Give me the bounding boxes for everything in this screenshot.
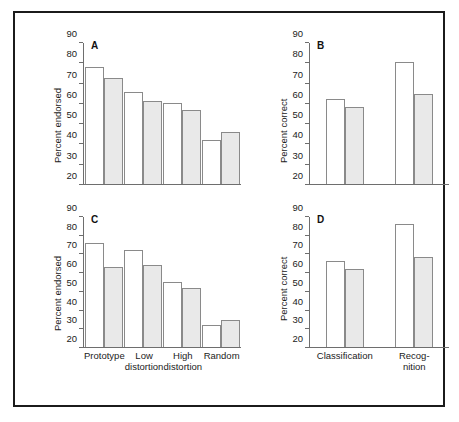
panel-b: B Percent correct 2030405060708090 xyxy=(277,35,449,207)
category-label-classification: Classification xyxy=(310,349,380,381)
bar-group xyxy=(310,217,380,347)
y-tick-label: 50 xyxy=(66,110,77,120)
y-tick-label: 30 xyxy=(66,151,77,161)
bar-open xyxy=(85,243,104,347)
bar-open xyxy=(395,62,414,184)
y-tick-mark xyxy=(305,310,309,311)
category-text: distortion xyxy=(125,362,164,373)
bar-filled xyxy=(345,269,364,347)
y-tick-mark xyxy=(79,291,83,292)
y-tick-mark xyxy=(305,123,309,124)
bar-filled xyxy=(143,265,162,347)
y-tick-label: 30 xyxy=(66,316,77,326)
y-tick-mark xyxy=(79,253,83,254)
y-tick-label: 40 xyxy=(66,297,77,307)
category-text: Random xyxy=(202,351,241,362)
category-label-recognition: Recog- nition xyxy=(380,349,450,381)
category-text: Prototype xyxy=(84,351,125,362)
y-tick-label: 90 xyxy=(66,29,77,39)
bar-group xyxy=(163,217,202,347)
y-tick-mark xyxy=(305,42,309,43)
panel-c-y-axis-title: Percent endorsed xyxy=(53,256,63,331)
y-tick-mark xyxy=(79,123,83,124)
panel-c-x-axis xyxy=(83,347,241,348)
bar-open xyxy=(395,224,414,347)
figure-container: A Percent endorsed 2030405060708090 B Pe… xyxy=(0,0,459,422)
bar-filled xyxy=(143,101,162,184)
panel-b-y-axis-title: Percent correct xyxy=(279,99,289,163)
y-tick-mark xyxy=(305,253,309,254)
bar-open xyxy=(202,140,221,184)
y-tick-label: 80 xyxy=(66,222,77,232)
y-tick-label: 60 xyxy=(66,90,77,100)
y-tick-label: 30 xyxy=(292,316,303,326)
y-tick-label: 40 xyxy=(292,131,303,141)
bar-group xyxy=(202,217,241,347)
panel-c-plot-area: 2030405060708090 xyxy=(83,217,241,348)
y-tick-mark xyxy=(79,272,83,273)
category-text: distortion xyxy=(163,362,202,373)
bar-filled xyxy=(345,107,364,184)
bar-filled xyxy=(182,110,201,184)
y-tick-label: 50 xyxy=(292,278,303,288)
panel-c-bar-groups xyxy=(84,217,241,347)
panel-c-category-labels: Prototype Low distortion High distortion… xyxy=(84,349,241,381)
category-text: High xyxy=(163,351,202,362)
y-tick-mark xyxy=(305,103,309,104)
y-tick-label: 40 xyxy=(66,131,77,141)
panel-b-x-axis xyxy=(309,184,449,185)
panel-d-y-axis-title: Percent correct xyxy=(279,257,289,321)
y-tick-mark xyxy=(305,235,309,236)
bar-group xyxy=(163,43,202,184)
y-tick-mark xyxy=(305,347,309,348)
category-label-high-distortion: High distortion xyxy=(163,349,202,381)
y-tick-mark xyxy=(79,103,83,104)
y-tick-mark xyxy=(79,310,83,311)
category-text: Recog- xyxy=(380,351,450,362)
panel-a-plot-area: 2030405060708090 xyxy=(83,43,241,185)
y-tick-mark xyxy=(79,164,83,165)
y-tick-label: 70 xyxy=(66,241,77,251)
bar-open xyxy=(326,99,345,184)
y-tick-mark xyxy=(79,347,83,348)
panel-d: D Percent correct 2030405060708090 Class… xyxy=(277,209,449,381)
bar-group xyxy=(380,43,450,184)
panel-a-bar-groups xyxy=(84,43,241,184)
y-tick-mark xyxy=(79,184,83,185)
bar-open xyxy=(163,282,182,347)
y-tick-label: 70 xyxy=(292,241,303,251)
y-tick-label: 30 xyxy=(292,151,303,161)
y-tick-mark xyxy=(79,42,83,43)
panel-d-category-labels: Classification Recog- nition xyxy=(310,349,449,381)
bar-open xyxy=(124,92,143,184)
category-text: Classification xyxy=(310,351,380,362)
panel-d-x-axis xyxy=(309,347,449,348)
y-tick-label: 20 xyxy=(66,171,77,181)
y-tick-label: 80 xyxy=(292,222,303,232)
y-tick-mark xyxy=(79,83,83,84)
bar-filled xyxy=(221,320,240,347)
category-label-random: Random xyxy=(202,349,241,381)
y-tick-label: 90 xyxy=(292,203,303,213)
bar-open xyxy=(124,250,143,347)
y-tick-label: 50 xyxy=(66,278,77,288)
y-tick-label: 80 xyxy=(292,50,303,60)
bar-group xyxy=(123,217,162,347)
y-tick-mark xyxy=(305,291,309,292)
y-tick-label: 20 xyxy=(66,334,77,344)
panel-d-plot-area: 2030405060708090 xyxy=(309,217,449,348)
y-tick-label: 20 xyxy=(292,334,303,344)
y-tick-mark xyxy=(305,143,309,144)
bar-filled xyxy=(182,288,201,347)
y-tick-mark xyxy=(305,328,309,329)
bar-filled xyxy=(414,94,433,184)
y-tick-mark xyxy=(79,216,83,217)
bar-group xyxy=(310,43,380,184)
bar-open xyxy=(163,103,182,184)
bar-group xyxy=(123,43,162,184)
y-tick-mark xyxy=(305,184,309,185)
y-tick-mark xyxy=(79,143,83,144)
panel-a-x-axis xyxy=(83,184,241,185)
y-tick-mark xyxy=(305,164,309,165)
y-tick-mark xyxy=(305,62,309,63)
